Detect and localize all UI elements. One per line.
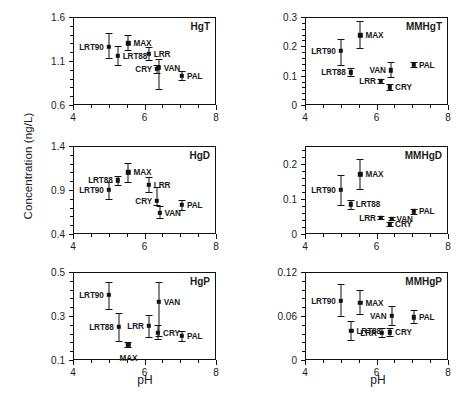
mercury-ph-scatter-figure: Concentration (ng/L) HgT0.61.11.6468LRT9… — [0, 0, 473, 400]
panel-mmhgd: MMHgD00.10.2468LRT90LRT88MAXLRRCRYVANPAL — [305, 146, 448, 234]
y-tick-minor — [302, 70, 305, 71]
error-bar-cap-lower — [411, 323, 418, 324]
point-label: LRT90 — [79, 42, 104, 51]
x-tick-minor — [180, 234, 181, 237]
y-tick-minor — [302, 178, 305, 179]
error-bar-cap-upper — [179, 71, 186, 72]
y-tick-minor — [302, 298, 305, 299]
y-tick-label: 0.3 — [283, 12, 297, 23]
error-bar-cap-lower — [105, 58, 112, 59]
x-tick-minor — [430, 105, 431, 108]
x-tick-major — [377, 234, 378, 239]
x-tick-minor — [412, 105, 413, 108]
error-bar-cap-lower — [387, 77, 394, 78]
y-tick-minor — [302, 227, 305, 228]
x-axis-title-left: pH — [137, 373, 152, 387]
error-bar-cap-upper — [156, 206, 163, 207]
point-label: CRY — [163, 328, 180, 337]
y-tick-minor — [302, 157, 305, 158]
marker — [412, 63, 416, 67]
point-label: LRR — [127, 321, 144, 330]
marker — [389, 68, 393, 72]
error-bar-cap-upper — [411, 310, 418, 311]
x-tick-major — [73, 234, 74, 239]
point-label: PAL — [419, 313, 434, 322]
x-tick-major — [377, 360, 378, 365]
y-tick-minor — [302, 334, 305, 335]
point-label: VAN — [397, 214, 413, 223]
error-bar-cap-lower — [125, 50, 132, 51]
point-label: LRR — [359, 213, 376, 222]
error-bar-cap-upper — [115, 313, 122, 314]
marker — [379, 216, 383, 220]
x-tick-label: 8 — [445, 241, 451, 252]
y-tick-minor — [302, 185, 305, 186]
marker — [358, 301, 362, 305]
error-bar-cap-lower — [337, 205, 344, 206]
point-label: CRY — [395, 328, 412, 337]
error-bar-cap-lower — [155, 89, 162, 90]
marker — [147, 183, 151, 187]
error-bar-cap-lower — [348, 340, 355, 341]
x-tick-label: 8 — [445, 367, 451, 378]
error-bar-cap-upper — [114, 176, 121, 177]
marker — [157, 299, 161, 303]
panel-mmhgp: MMHgP00.060.12468LRT90LRT88MAXLRRCRYVANP… — [305, 272, 448, 360]
error-bar-cap-upper — [357, 21, 364, 22]
error-bar-cap-lower — [115, 341, 122, 342]
y-tick-minor — [70, 325, 73, 326]
y-tick-label: 0.6 — [51, 100, 65, 111]
x-tick-label: 6 — [374, 112, 380, 123]
y-tick-minor — [70, 298, 73, 299]
y-tick-major — [69, 272, 74, 273]
y-tick-label: 1.6 — [51, 12, 65, 23]
y-tick-minor — [302, 64, 305, 65]
y-tick-label: 0.3 — [51, 311, 65, 322]
x-tick-minor — [109, 234, 110, 237]
point-label: PAL — [187, 71, 202, 80]
y-tick-minor — [302, 99, 305, 100]
panel-title: MMHgT — [406, 21, 442, 32]
x-tick-label: 6 — [142, 112, 148, 123]
y-tick-label: 0.1 — [283, 193, 297, 204]
y-tick-minor — [302, 150, 305, 151]
x-tick-minor — [394, 105, 395, 108]
error-bar-cap-lower — [155, 336, 162, 337]
y-tick-major — [301, 17, 306, 18]
marker — [107, 45, 111, 49]
error-bar-cap-lower — [179, 341, 186, 342]
x-tick-label: 8 — [213, 241, 219, 252]
error-bar-cap-upper — [387, 62, 394, 63]
y-tick-label: 0.4 — [51, 229, 65, 240]
x-tick-label: 8 — [213, 112, 219, 123]
x-tick-major — [216, 234, 217, 239]
x-tick-major — [377, 105, 378, 110]
y-tick-major — [69, 190, 74, 191]
error-bar-cap-lower — [347, 209, 354, 210]
y-tick-minor — [70, 342, 73, 343]
point-label: PAL — [187, 200, 202, 209]
x-tick-minor — [430, 234, 431, 237]
y-tick-minor — [70, 155, 73, 156]
y-tick-minor — [302, 29, 305, 30]
x-tick-minor — [394, 234, 395, 237]
y-tick-minor — [302, 35, 305, 36]
error-bar-cap-upper — [387, 328, 394, 329]
y-tick-minor — [302, 307, 305, 308]
point-label: PAL — [419, 60, 434, 69]
marker — [412, 209, 416, 213]
error-bar-cap-upper — [155, 282, 162, 283]
error-bar-cap-upper — [378, 328, 385, 329]
panel-hgt: HgT0.61.11.6468LRT90LRT88MAXLRRCRYVANPAL — [73, 17, 216, 105]
y-tick-minor — [302, 93, 305, 94]
error-bar-cap-lower — [387, 226, 394, 227]
point-label: MAX — [119, 354, 137, 363]
point-label: VAN — [370, 312, 386, 321]
error-bar-cap-lower — [145, 192, 152, 193]
marker — [380, 331, 384, 335]
error-bar-cap-lower — [411, 67, 418, 68]
point-label: CRY — [135, 64, 152, 73]
error-bar-cap-lower — [125, 182, 132, 183]
y-tick-minor — [70, 172, 73, 173]
point-label: MAX — [133, 168, 151, 177]
